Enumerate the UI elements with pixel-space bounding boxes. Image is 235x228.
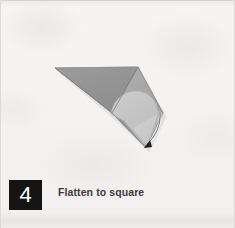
step-number: 4	[19, 184, 31, 207]
scan-band-bottom	[0, 212, 235, 228]
step-caption: Flatten to square	[58, 186, 144, 198]
origami-fold-diagram	[0, 0, 235, 175]
caption-row: 4 Flatten to square	[0, 178, 235, 212]
step-number-badge: 4	[9, 180, 42, 210]
step-panel: 4 Flatten to square	[0, 0, 235, 228]
